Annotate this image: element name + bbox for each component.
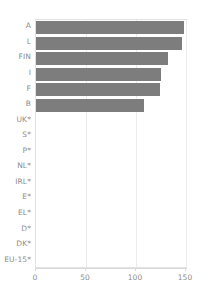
x-axis-tick-mark xyxy=(185,268,186,271)
bar-row xyxy=(36,145,188,161)
y-axis-label: EL* xyxy=(18,209,31,217)
y-axis-label: I xyxy=(29,69,31,77)
y-axis-label: EU-15* xyxy=(4,256,31,264)
y-axis-label: B xyxy=(26,100,31,108)
bar-row xyxy=(36,36,188,52)
bars-layer xyxy=(36,20,186,267)
x-axis-tick-label: 150 xyxy=(178,273,192,282)
x-axis-tick-label: 50 xyxy=(80,273,90,282)
y-axis-label: P* xyxy=(23,147,31,155)
bar xyxy=(36,99,144,112)
bar-row xyxy=(36,253,188,269)
y-axis-label: E* xyxy=(22,193,31,201)
bar-row xyxy=(36,20,188,36)
bar xyxy=(36,83,160,96)
y-axis-labels: ALFINIFBUK*S*P*NL*IRL*E*EL*D*DK*EU-15* xyxy=(0,19,33,268)
bar-row xyxy=(36,191,188,207)
y-axis-label: F xyxy=(27,85,31,93)
x-axis-line xyxy=(35,268,187,269)
bar-chart: ALFINIFBUK*S*P*NL*IRL*E*EL*D*DK*EU-15* 0… xyxy=(0,0,202,299)
bar xyxy=(36,52,168,65)
y-axis-label: FIN xyxy=(19,53,31,61)
bar-row xyxy=(36,67,188,83)
x-axis-tick-label: 100 xyxy=(128,273,142,282)
bar xyxy=(36,68,161,81)
x-axis-tick-label: 0 xyxy=(33,273,38,282)
y-axis-label: S* xyxy=(22,131,31,139)
x-axis-tick-mark xyxy=(135,268,136,271)
bar-row xyxy=(36,82,188,98)
bar xyxy=(36,37,182,50)
bar-row xyxy=(36,160,188,176)
y-axis-label: D* xyxy=(21,225,31,233)
bar-row xyxy=(36,176,188,192)
y-axis-label: A xyxy=(26,22,31,30)
y-axis-label: NL* xyxy=(17,162,31,170)
y-axis-label: DK* xyxy=(16,240,31,248)
x-axis-tick-mark xyxy=(35,268,36,271)
bar-row xyxy=(36,129,188,145)
bar-row xyxy=(36,238,188,254)
y-axis-label: L xyxy=(27,38,31,46)
y-axis-label: IRL* xyxy=(15,178,31,186)
bar-row xyxy=(36,222,188,238)
bar-row xyxy=(36,207,188,223)
bar xyxy=(36,21,184,34)
bar-row xyxy=(36,98,188,114)
bar-row xyxy=(36,113,188,129)
y-axis-label: UK* xyxy=(17,116,31,124)
bar-row xyxy=(36,51,188,67)
plot-area xyxy=(35,19,187,268)
x-axis-tick-mark xyxy=(85,268,86,271)
